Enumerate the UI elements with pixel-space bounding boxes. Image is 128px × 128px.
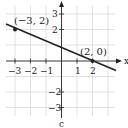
- y-tick-label: 3: [52, 9, 58, 19]
- y-tick-label: −2: [48, 87, 61, 97]
- y-axis-arrow-icon: [59, 1, 64, 7]
- y-tick-label: 2: [52, 25, 58, 35]
- point-label: (2, 0): [80, 46, 107, 57]
- x-axis-arrow-icon: [116, 59, 122, 64]
- point-marker: [91, 59, 95, 63]
- x-tick-label: 2: [90, 66, 96, 76]
- x-tick-label: −3: [8, 66, 22, 76]
- x-tick-label: 1: [75, 66, 81, 76]
- point-marker: [13, 28, 17, 32]
- x-tick-label: −2: [24, 66, 37, 76]
- x-tick-label: −1: [40, 66, 53, 76]
- coordinate-graph: x −3 −2 −1 1 2 3 2 −2 −3 (−3, 2) (2, 0) …: [0, 0, 128, 128]
- y-tick-label: −3: [48, 103, 62, 113]
- caption-label: c: [59, 119, 64, 128]
- x-axis-label: x: [124, 56, 128, 66]
- point-label: (−3, 2): [14, 15, 49, 26]
